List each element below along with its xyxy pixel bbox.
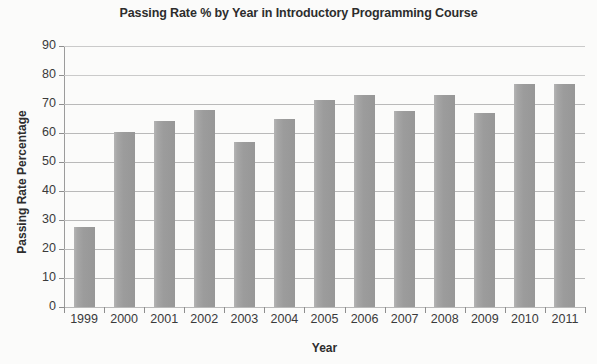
y-tick-label-10: 10: [10, 270, 56, 284]
x-tick-mark-2: [144, 307, 145, 313]
bar-2002: [194, 110, 215, 307]
y-tick-label-20: 20: [10, 241, 56, 255]
gridline-80: [64, 75, 585, 76]
bar-2000: [114, 132, 135, 307]
y-tick-label-0: 0: [10, 299, 56, 313]
x-tick-mark-11: [505, 307, 506, 313]
bar-2009: [474, 113, 495, 307]
x-tick-label-2000: 2000: [102, 312, 146, 326]
x-tick-label-2011: 2011: [543, 312, 587, 326]
x-tick-mark-13: [585, 307, 586, 313]
plot-area: [64, 46, 585, 307]
x-tick-mark-6: [304, 307, 305, 313]
x-tick-mark-4: [224, 307, 225, 313]
x-tick-label-2009: 2009: [463, 312, 507, 326]
x-tick-label-2003: 2003: [222, 312, 266, 326]
bar-2005: [314, 100, 335, 307]
x-tick-mark-1: [104, 307, 105, 313]
bar-2007: [394, 111, 415, 307]
gridline-0: [64, 307, 585, 308]
y-tick-label-60: 60: [10, 125, 56, 139]
x-tick-mark-5: [264, 307, 265, 313]
x-tick-mark-10: [465, 307, 466, 313]
bar-2010: [514, 84, 535, 307]
bar-2006: [354, 95, 375, 307]
bar-2003: [234, 142, 255, 307]
x-tick-label-2002: 2002: [182, 312, 226, 326]
gridline-90: [64, 46, 585, 47]
y-tick-label-70: 70: [10, 96, 56, 110]
x-tick-label-2005: 2005: [303, 312, 347, 326]
bar-2008: [434, 95, 455, 307]
x-tick-mark-12: [545, 307, 546, 313]
x-axis-title: Year: [64, 341, 585, 355]
x-tick-label-2001: 2001: [142, 312, 186, 326]
x-tick-label-2004: 2004: [262, 312, 306, 326]
x-tick-mark-9: [425, 307, 426, 313]
bar-1999: [74, 227, 95, 307]
x-tick-label-1999: 1999: [62, 312, 106, 326]
y-tick-label-50: 50: [10, 154, 56, 168]
x-tick-label-2010: 2010: [503, 312, 547, 326]
chart-title: Passing Rate % by Year in Introductory P…: [0, 6, 597, 20]
x-tick-label-2008: 2008: [423, 312, 467, 326]
y-tick-label-80: 80: [10, 67, 56, 81]
x-tick-mark-7: [345, 307, 346, 313]
x-tick-label-2006: 2006: [343, 312, 387, 326]
x-tick-mark-3: [184, 307, 185, 313]
bar-2011: [554, 84, 575, 307]
bar-2004: [274, 119, 295, 308]
bar-chart-figure: Passing Rate % by Year in Introductory P…: [0, 0, 597, 364]
x-tick-mark-8: [385, 307, 386, 313]
x-tick-label-2007: 2007: [383, 312, 427, 326]
y-tick-label-40: 40: [10, 183, 56, 197]
bar-2001: [154, 121, 175, 307]
x-tick-mark-0: [64, 307, 65, 313]
y-tick-label-90: 90: [10, 38, 56, 52]
y-tick-label-30: 30: [10, 212, 56, 226]
